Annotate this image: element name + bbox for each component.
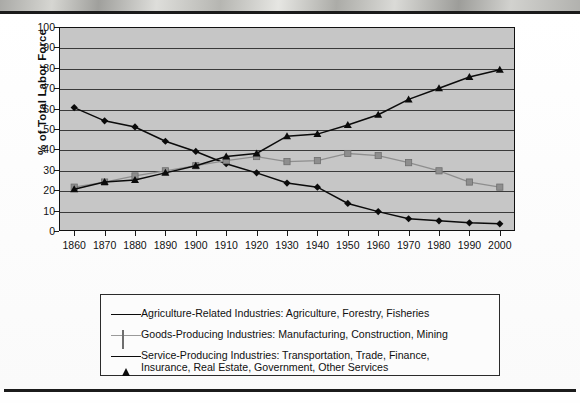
data-point [375,208,382,215]
legend-key-triangle [111,350,141,362]
legend: Agriculture-Related Industries: Agricult… [100,294,500,376]
data-point [71,104,78,111]
legend-item-goods: Goods-Producing Industries: Manufacturin… [111,328,448,341]
data-point [466,179,472,185]
data-point [314,158,320,164]
legend-key-square [111,329,141,341]
y-tick-label: 100 [15,22,55,33]
x-tick-mark [226,231,227,236]
data-point [406,160,412,166]
legend-label-agriculture: Agriculture-Related Industries: Agricult… [141,307,429,319]
legend-key-diamond [111,308,141,320]
data-point [101,117,108,124]
horizontal-rule-bottom [4,389,576,392]
legend-item-service: Service-Producing Industries: Transporta… [111,349,430,374]
x-tick-mark [317,231,318,236]
scan-artifact-band [0,0,580,11]
data-point [253,149,261,156]
data-point [314,184,321,191]
data-point [131,123,138,130]
data-point [466,219,473,226]
scanned-figure-page: % of Total Labor Force 01020304050607080… [0,0,580,403]
y-tick-label: 60 [15,104,55,115]
y-tick-label: 20 [15,185,55,196]
data-point [497,184,503,190]
y-tick-label: 70 [15,83,55,94]
legend-label-goods: Goods-Producing Industries: Manufacturin… [141,328,448,340]
data-point [374,111,382,118]
data-point [162,138,169,145]
x-tick-mark [196,231,197,236]
data-point [192,148,199,155]
y-tick-label: 30 [15,165,55,176]
x-tick-mark [348,231,349,236]
x-tick-mark [257,231,258,236]
data-point [375,152,381,158]
y-tick-label: 50 [15,124,55,135]
x-tick-mark [439,231,440,236]
data-point [284,159,290,165]
x-tick-label: 2000 [480,240,520,251]
series-diamond [71,104,504,227]
data-point [405,215,412,222]
x-tick-mark [469,231,470,236]
data-point [344,200,351,207]
x-tick-mark [287,231,288,236]
legend-label-service: Service-Producing Industries: Transporta… [141,349,430,374]
data-point [496,220,503,227]
x-tick-mark [105,231,106,236]
y-tick-label: 90 [15,42,55,53]
data-point [253,169,260,176]
data-point [435,217,442,224]
y-tick-label: 0 [15,226,55,237]
x-tick-mark [165,231,166,236]
y-tick-label: 10 [15,206,55,217]
series-plot [59,27,515,231]
x-tick-mark [409,231,410,236]
y-tick-label: 40 [15,144,55,155]
legend-item-agriculture: Agriculture-Related Industries: Agricult… [111,307,429,320]
line-chart: % of Total Labor Force 01020304050607080… [0,14,580,389]
y-tick-label: 80 [15,63,55,74]
x-tick-mark [378,231,379,236]
x-tick-mark [500,231,501,236]
data-point [283,179,290,186]
data-point [436,168,442,174]
data-point [496,66,504,73]
x-tick-mark [135,231,136,236]
data-point [345,150,351,156]
x-tick-mark [74,231,75,236]
